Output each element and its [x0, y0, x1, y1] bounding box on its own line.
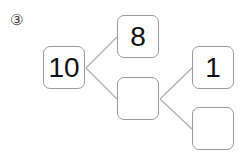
middle-answer-box[interactable]: [117, 77, 159, 120]
top-branch-box: 8: [117, 15, 159, 58]
right-bottom-answer-box[interactable]: [192, 107, 234, 150]
root-box: 10: [43, 46, 85, 89]
right-top-box: 1: [192, 46, 234, 89]
